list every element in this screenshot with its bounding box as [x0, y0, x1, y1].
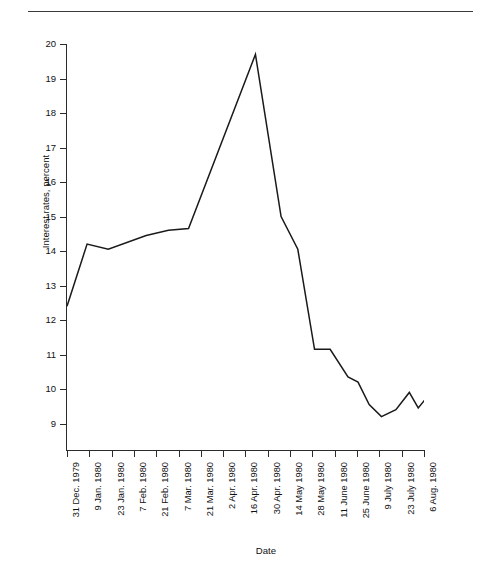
- y-tick-17: [60, 148, 67, 149]
- x-tick-label-15: 23 July 1980: [406, 462, 416, 515]
- y-tick-15: [60, 217, 67, 218]
- x-tick-9: [268, 450, 269, 457]
- x-tick-label-8: 16 Apr. 1980: [249, 462, 259, 514]
- x-tick-label-2: 23 Jan. 1980: [116, 462, 126, 516]
- x-tick-label-4: 21 Feb. 1980: [160, 462, 170, 517]
- x-tick-16: [424, 450, 425, 457]
- x-tick-label-12: 11 June 1980: [339, 462, 349, 518]
- x-axis-title: Date: [0, 545, 502, 556]
- x-tick-13: [357, 450, 358, 457]
- x-tick-5: [179, 450, 180, 457]
- x-tick-0: [67, 450, 68, 457]
- x-tick-label-14: 9 July 1980: [383, 462, 393, 510]
- x-tick-3: [134, 450, 135, 457]
- y-tick-14: [60, 251, 67, 252]
- y-tick-label-19: 19: [30, 73, 56, 84]
- x-axis-title-text: Date: [256, 545, 276, 556]
- x-tick-4: [156, 450, 157, 457]
- x-tick-12: [335, 450, 336, 457]
- x-tick-label-7: 2 Apr. 1980: [227, 462, 237, 509]
- x-tick-label-3: 7 Feb. 1980: [138, 462, 148, 512]
- y-tick-label-12: 12: [30, 314, 56, 325]
- x-tick-2: [112, 450, 113, 457]
- y-tick-9: [60, 424, 67, 425]
- x-tick-label-11: 28 May 1980: [316, 462, 326, 516]
- y-tick-12: [60, 320, 67, 321]
- y-tick-label-11: 11: [30, 349, 56, 360]
- y-tick-19: [60, 79, 67, 80]
- y-tick-label-13: 13: [30, 280, 56, 291]
- y-axis-title: Interest rates, percent: [40, 127, 51, 277]
- x-tick-1: [89, 450, 90, 457]
- plot-area: [67, 44, 424, 450]
- y-tick-label-20: 20: [30, 38, 56, 49]
- x-tick-label-16: 6 Aug. 1980: [428, 462, 438, 512]
- y-tick-11: [60, 355, 67, 356]
- x-tick-label-5: 7 Mar. 1980: [183, 462, 193, 511]
- x-tick-label-13: 25 June 1980: [361, 462, 371, 518]
- x-tick-label-1: 9 Jan. 1980: [93, 462, 103, 511]
- y-tick-label-18: 18: [30, 107, 56, 118]
- data-series-line: [67, 54, 424, 416]
- x-tick-label-6: 21 Mar. 1980: [205, 462, 215, 516]
- y-tick-label-10: 10: [30, 383, 56, 394]
- x-tick-7: [223, 450, 224, 457]
- x-tick-10: [290, 450, 291, 457]
- y-tick-20: [60, 44, 67, 45]
- y-tick-13: [60, 286, 67, 287]
- x-tick-15: [402, 450, 403, 457]
- y-tick-18: [60, 113, 67, 114]
- y-tick-16: [60, 182, 67, 183]
- x-tick-6: [201, 450, 202, 457]
- x-tick-label-0: 31 Dec. 1979: [71, 462, 81, 517]
- x-tick-11: [312, 450, 313, 457]
- x-tick-label-9: 30 Apr. 1980: [272, 462, 282, 514]
- line-chart-figure: 20191817161514131211109 31 Dec. 19799 Ja…: [0, 0, 502, 569]
- x-tick-8: [245, 450, 246, 457]
- x-tick-label-10: 14 May 1980: [294, 462, 304, 516]
- y-tick-label-9: 9: [30, 418, 56, 429]
- y-tick-10: [60, 389, 67, 390]
- x-tick-14: [379, 450, 380, 457]
